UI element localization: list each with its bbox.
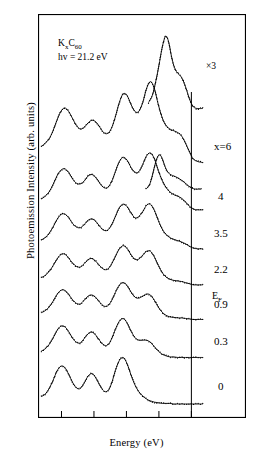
y-axis-label: Photoemission Intensity (arb. units)	[25, 81, 36, 281]
multiplier-annotation: ×3	[206, 61, 216, 71]
x-axis-label-text: Energy (eV)	[109, 437, 163, 448]
photon-energy-annotation: hv = 21.2 eV	[58, 52, 108, 62]
svg-text:2.2: 2.2	[214, 263, 228, 275]
svg-text:0.3: 0.3	[214, 335, 228, 347]
svg-text:3.5: 3.5	[214, 227, 228, 239]
svg-text:x=6: x=6	[214, 140, 232, 152]
svg-text:4: 4	[218, 190, 224, 202]
sample-formula-k: K	[58, 38, 65, 48]
fermi-level-f: F	[218, 296, 222, 304]
chart-svg: 4321x=643.52.20.90.30	[38, 14, 246, 418]
figure-root: Photoemission Intensity (arb. units) Ene…	[0, 0, 273, 464]
x-axis-label: Energy (eV)	[0, 437, 273, 448]
svg-text:0: 0	[218, 380, 224, 392]
sample-formula-annotation: KxC60	[58, 38, 82, 51]
sample-formula-60: 60	[75, 43, 82, 51]
plot-area: 4321x=643.52.20.90.30	[38, 14, 246, 418]
fermi-level-label: EF	[212, 290, 222, 304]
